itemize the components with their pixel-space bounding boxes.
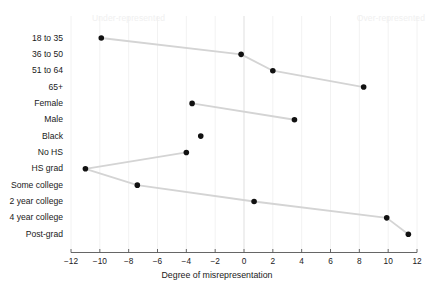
- x-tick-label: −6: [143, 256, 173, 266]
- data-points: [83, 35, 412, 237]
- chart-root: Under-represented Over-represented 18 to…: [0, 0, 434, 290]
- category-label: Female: [34, 98, 63, 108]
- x-tick-label: 12: [402, 256, 432, 266]
- x-tick-label: −10: [85, 256, 115, 266]
- category-label: 51 to 64: [32, 65, 63, 75]
- x-tick-label: 6: [316, 256, 346, 266]
- x-axis: [71, 249, 417, 253]
- x-tick-label: 2: [258, 256, 288, 266]
- category-label: 36 to 50: [32, 49, 63, 59]
- x-tick-label: 0: [229, 256, 259, 266]
- under-represented-annotation: Under-represented: [92, 13, 165, 23]
- x-tick-label: −2: [200, 256, 230, 266]
- category-label: 2 year college: [9, 196, 63, 206]
- category-label: Post-grad: [26, 229, 63, 239]
- category-label: HS grad: [31, 163, 63, 173]
- x-tick-label: −4: [171, 256, 201, 266]
- over-represented-annotation: Over-represented: [357, 13, 425, 23]
- category-label: Male: [44, 114, 63, 124]
- x-tick-label: −12: [56, 256, 86, 266]
- chart-plot: [0, 0, 434, 290]
- category-label: 65+: [48, 82, 63, 92]
- category-label: Black: [42, 131, 63, 141]
- category-label: No HS: [38, 147, 63, 157]
- category-label: 4 year college: [9, 212, 63, 222]
- x-axis-title: Degree of misrepresentation: [0, 270, 434, 280]
- x-tick-label: 4: [287, 256, 317, 266]
- x-tick-label: −8: [114, 256, 144, 266]
- x-tick-label: 8: [344, 256, 374, 266]
- connector-lines: [85, 38, 408, 234]
- category-label: Some college: [11, 180, 63, 190]
- category-label: 18 to 35: [32, 33, 63, 43]
- x-tick-label: 10: [373, 256, 403, 266]
